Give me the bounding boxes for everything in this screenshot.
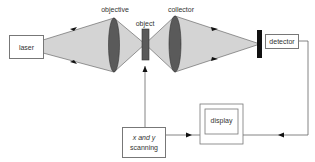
objective-label: objective (100, 6, 130, 13)
detector-box: detector (265, 34, 299, 49)
scanning-box: x and y scanning (122, 127, 166, 158)
arrow-icon (186, 133, 192, 138)
object-label: object (133, 20, 157, 27)
detector-bar (257, 30, 262, 58)
collector-lens (169, 16, 181, 72)
beam-laser-objective (43, 18, 114, 72)
laser-box: laser (9, 35, 44, 59)
beam-collector-detector (175, 16, 260, 72)
object-specimen (142, 29, 149, 60)
arrow-icon (143, 66, 148, 72)
wire-detector-display (237, 41, 308, 135)
arrow-icon (278, 133, 284, 138)
display-label: display (205, 117, 238, 124)
laser-label: laser (19, 44, 34, 51)
objective-lens (109, 18, 120, 72)
scanning-label-line2: scanning (130, 144, 158, 151)
detector-label: detector (269, 38, 294, 45)
collector-label: collector (166, 6, 196, 13)
scanning-label-line1: x and y (133, 134, 156, 141)
